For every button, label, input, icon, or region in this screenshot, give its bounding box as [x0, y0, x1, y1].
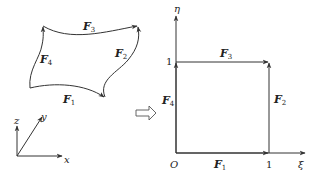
label-f3-reference: F3	[219, 47, 232, 61]
label-f3-physical: F3	[82, 20, 95, 34]
label-f2-reference: F2	[273, 93, 286, 107]
eta-axis-label: η	[174, 3, 180, 14]
xyz-axes: z y x	[13, 111, 70, 165]
edge-f2-curve	[104, 27, 139, 97]
label-f4-reference: F4	[161, 94, 175, 108]
xi-tick-label: 1	[266, 159, 272, 170]
mapping-diagram: F3 F2 F4 F1 z y x η 1 O 1 ξ F3 F2	[0, 0, 318, 180]
reference-domain: η 1 O 1 ξ F3 F2 F4 F1	[161, 3, 305, 172]
label-f4-physical: F4	[39, 53, 53, 67]
z-axis-label: z	[13, 115, 20, 126]
y-axis-arrow	[17, 117, 42, 156]
y-axis-label: y	[40, 111, 47, 122]
xi-axis-label: ξ	[298, 159, 304, 170]
physical-domain: F3 F2 F4 F1	[30, 20, 139, 107]
label-f1-physical: F1	[62, 93, 75, 107]
x-axis-label: x	[64, 154, 70, 165]
origin-label: O	[170, 159, 178, 170]
label-f1-reference: F1	[213, 158, 226, 172]
hollow-right-arrow-icon	[136, 106, 156, 120]
label-f2-physical: F2	[114, 47, 127, 61]
eta-tick-label: 1	[166, 56, 172, 67]
